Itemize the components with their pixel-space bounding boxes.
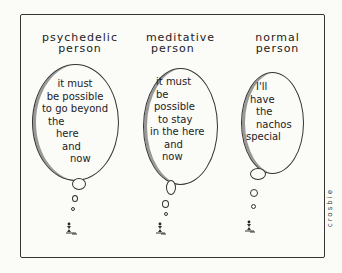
meditating-figure-icon <box>244 220 258 234</box>
thought-dot-medium <box>250 189 258 197</box>
thought-dot-medium <box>72 195 78 202</box>
thought-dot-large <box>72 178 86 190</box>
thought-text-psychedelic: it must be possible to go beyond the her… <box>34 78 116 166</box>
thought-line: special <box>242 131 300 144</box>
thought-line: have <box>242 94 300 107</box>
thought-text-meditative: it must be possible to stay in the here … <box>148 76 214 164</box>
thought-line: and <box>34 141 116 154</box>
meditating-figure-icon <box>155 222 169 236</box>
meditating-figure-icon <box>65 222 79 236</box>
thought-line: to stay <box>148 114 214 127</box>
thought-line: the <box>242 106 300 119</box>
label-psychedelic-person: psychedelic person <box>40 32 120 54</box>
thought-line: to go beyond <box>34 103 116 116</box>
thought-dot-medium <box>162 200 169 208</box>
thought-text-normal: I'll have the nachos special <box>242 81 300 144</box>
label-meditative-person: meditative person <box>143 32 218 54</box>
thought-line: in the here <box>148 126 214 139</box>
thought-line: be <box>148 89 214 102</box>
thought-line: here <box>34 128 116 141</box>
thought-line: possible <box>148 101 214 114</box>
thought-dot-small <box>164 212 168 216</box>
thought-dot-small <box>251 204 256 209</box>
label-line: person <box>40 43 120 54</box>
artist-signature: crosbie <box>326 188 334 227</box>
thought-line: it must <box>148 76 214 89</box>
thought-line: now <box>34 153 116 166</box>
thought-dot-small <box>71 207 75 211</box>
thought-dot-large <box>250 168 266 180</box>
thought-line: it must <box>34 78 116 91</box>
label-normal-person: normal person <box>250 32 305 54</box>
thought-line: I'll <box>242 81 300 94</box>
thought-line: nachos <box>242 119 300 132</box>
thought-line: be possible <box>34 91 116 104</box>
thought-line: the <box>34 116 116 129</box>
thought-dot-large <box>166 180 176 195</box>
thought-line: now <box>148 151 214 164</box>
label-line: person <box>143 43 218 54</box>
label-line: person <box>250 43 305 54</box>
thought-line: and <box>148 139 214 152</box>
